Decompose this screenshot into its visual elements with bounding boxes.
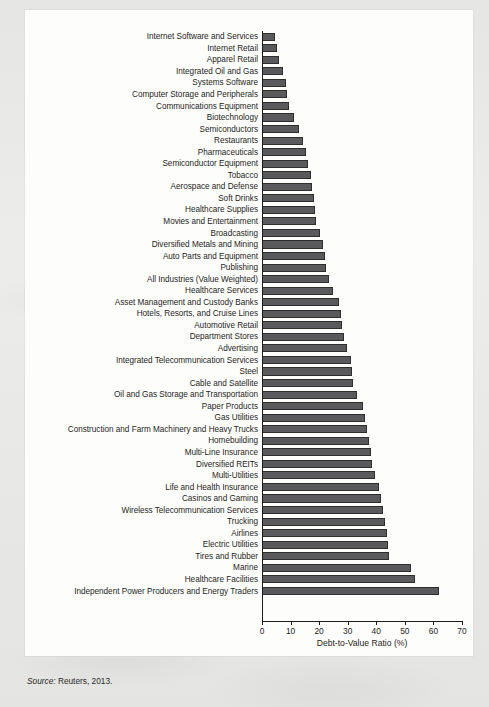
chart-row: Internet Retail xyxy=(25,43,473,55)
chart-row: Airlines xyxy=(25,528,473,540)
chart-row: Life and Health Insurance xyxy=(25,481,473,493)
category-label: Steel xyxy=(25,367,262,376)
bar xyxy=(262,518,385,526)
bar xyxy=(262,529,387,537)
bar-track xyxy=(262,504,473,516)
x-tick-label: 30 xyxy=(343,626,352,636)
bar xyxy=(262,33,275,41)
bar-track xyxy=(262,89,473,101)
x-tick xyxy=(319,621,320,625)
bar-track xyxy=(262,100,473,112)
bar-chart: Internet Software and ServicesInternet R… xyxy=(25,10,473,656)
category-label: Communications Equipment xyxy=(25,102,262,111)
bar-track xyxy=(262,574,473,586)
bar-track xyxy=(262,447,473,459)
bar-track xyxy=(262,412,473,424)
bar-track xyxy=(262,31,473,43)
chart-row: Healthcare Services xyxy=(25,285,473,297)
chart-row: Steel xyxy=(25,366,473,378)
figure-panel: Internet Software and ServicesInternet R… xyxy=(25,10,473,656)
chart-row: Multi-Utilities xyxy=(25,470,473,482)
chart-row: Semiconductors xyxy=(25,123,473,135)
category-label: Apparel Retail xyxy=(25,55,262,64)
bar-track xyxy=(262,585,473,597)
chart-row: Restaurants xyxy=(25,135,473,147)
chart-row: Semiconductor Equipment xyxy=(25,158,473,170)
bar-track xyxy=(262,366,473,378)
bar xyxy=(262,310,341,318)
bar-track xyxy=(262,377,473,389)
chart-row: Asset Management and Custody Banks xyxy=(25,297,473,309)
bar-track xyxy=(262,435,473,447)
bar-track xyxy=(262,239,473,251)
category-label: Automotive Retail xyxy=(25,321,262,330)
category-label: Construction and Farm Machinery and Heav… xyxy=(25,425,262,434)
bar xyxy=(262,298,339,306)
bar xyxy=(262,425,367,433)
chart-row: Cable and Satellite xyxy=(25,377,473,389)
source-value: Reuters, 2013. xyxy=(56,676,113,686)
category-label: Marine xyxy=(25,563,262,572)
category-label: Diversified REITs xyxy=(25,460,262,469)
chart-row: Diversified Metals and Mining xyxy=(25,239,473,251)
bar-track xyxy=(262,273,473,285)
category-label: Integrated Oil and Gas xyxy=(25,67,262,76)
chart-row: Computer Storage and Peripherals xyxy=(25,89,473,101)
x-tick xyxy=(291,621,292,625)
bar-track xyxy=(262,112,473,124)
chart-row: Pharmaceuticals xyxy=(25,146,473,158)
bar-track xyxy=(262,204,473,216)
chart-row: Tobacco xyxy=(25,170,473,182)
chart-row: Diversified REITs xyxy=(25,458,473,470)
chart-row: Biotechnology xyxy=(25,112,473,124)
bar-track xyxy=(262,158,473,170)
category-label: Electric Utilities xyxy=(25,540,262,549)
x-axis-line xyxy=(262,621,462,622)
x-tick xyxy=(405,621,406,625)
chart-row: All Industries (Value Weighted) xyxy=(25,273,473,285)
x-tick xyxy=(262,621,263,625)
category-label: Department Stores xyxy=(25,332,262,341)
chart-row: Construction and Farm Machinery and Heav… xyxy=(25,424,473,436)
category-label: Biotechnology xyxy=(25,113,262,122)
x-tick xyxy=(433,621,434,625)
bar-track xyxy=(262,123,473,135)
bar-track xyxy=(262,43,473,55)
chart-row: Tires and Rubber xyxy=(25,551,473,563)
bar xyxy=(262,391,357,399)
x-tick-label: 20 xyxy=(314,626,323,636)
bar xyxy=(262,79,286,87)
bar-track xyxy=(262,389,473,401)
category-label: Independent Power Producers and Energy T… xyxy=(25,587,262,596)
bar-track xyxy=(262,262,473,274)
category-label: Soft Drinks xyxy=(25,194,262,203)
bar-track xyxy=(262,354,473,366)
bar-track xyxy=(262,227,473,239)
category-label: Oil and Gas Storage and Transportation xyxy=(25,390,262,399)
source-note: Source: Reuters, 2013. xyxy=(27,676,112,686)
bar-track xyxy=(262,320,473,332)
bar-track xyxy=(262,551,473,563)
category-label: All Industries (Value Weighted) xyxy=(25,275,262,284)
bar xyxy=(262,575,415,583)
bar xyxy=(262,402,363,410)
chart-row: Publishing xyxy=(25,262,473,274)
bar xyxy=(262,275,329,283)
bar xyxy=(262,321,342,329)
x-tick-label: 60 xyxy=(429,626,438,636)
category-label: Movies and Entertainment xyxy=(25,217,262,226)
bar xyxy=(262,125,299,133)
x-tick-label: 0 xyxy=(260,626,265,636)
chart-row: Hotels, Resorts, and Cruise Lines xyxy=(25,308,473,320)
category-label: Airlines xyxy=(25,529,262,538)
chart-row: Internet Software and Services xyxy=(25,31,473,43)
bar-track xyxy=(262,285,473,297)
bar-track xyxy=(262,401,473,413)
chart-row: Electric Utilities xyxy=(25,539,473,551)
category-label: Casinos and Gaming xyxy=(25,494,262,503)
bar-track xyxy=(262,308,473,320)
category-label: Gas Utilities xyxy=(25,413,262,422)
category-label: Internet Software and Services xyxy=(25,32,262,41)
bar xyxy=(262,102,289,110)
chart-row: Trucking xyxy=(25,516,473,528)
